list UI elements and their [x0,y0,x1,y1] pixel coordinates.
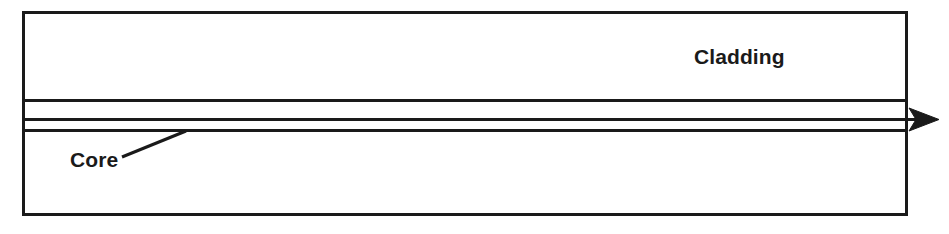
optical-fiber-diagram: Cladding Core [0,0,949,234]
diagram-canvas [0,0,949,234]
cladding-label: Cladding [694,46,785,67]
core-label: Core [70,149,118,170]
cladding-boundary-rect [24,13,907,215]
